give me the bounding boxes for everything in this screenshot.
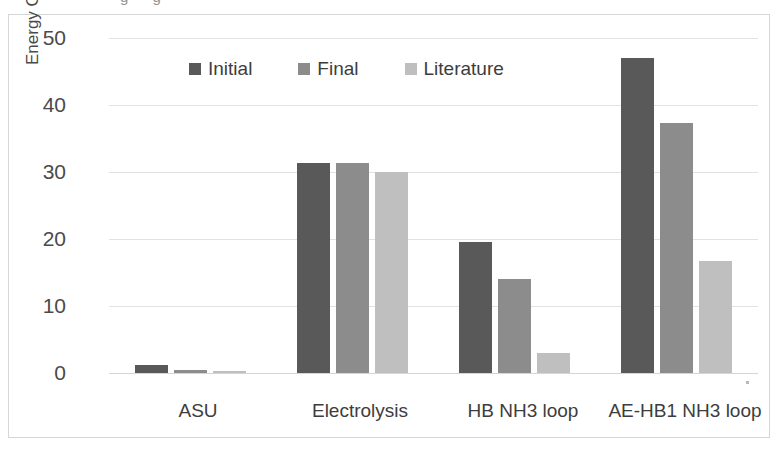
bar-ae-hb1-nh3-loop-initial[interactable] <box>621 58 654 373</box>
bar-hb-nh3-loop-initial[interactable] <box>459 242 492 373</box>
y-tick-label-40: 40 <box>20 94 66 115</box>
x-axis-category-labels: ASUElectrolysisHB NH3 loopAE-HB1 NH3 loo… <box>117 400 766 430</box>
bar-electrolysis-initial[interactable] <box>297 163 330 373</box>
clipped-caption-above: g g <box>0 0 781 12</box>
plot-area <box>109 38 758 373</box>
gridline-0 <box>109 373 758 374</box>
bar-asu-literature[interactable] <box>213 371 246 373</box>
scan-speck <box>746 381 749 384</box>
y-tick-label-0: 0 <box>20 362 66 383</box>
y-tick-label-30: 30 <box>20 161 66 182</box>
x-axis-label-ae-hb1-nh3-loop: AE-HB1 NH3 loop <box>604 400 766 422</box>
bar-ae-hb1-nh3-loop-literature[interactable] <box>699 261 732 373</box>
bar-electrolysis-final[interactable] <box>336 163 369 373</box>
y-tick-label-20: 20 <box>20 228 66 249</box>
y-tick-label-10: 10 <box>20 295 66 316</box>
x-axis-label-asu: ASU <box>117 400 279 422</box>
bar-electrolysis-literature[interactable] <box>375 172 408 373</box>
bar-ae-hb1-nh3-loop-final[interactable] <box>660 123 693 373</box>
chart-screenshot: g g Energy Consumption (GJ/tNH3) 0102030… <box>0 0 781 464</box>
bar-hb-nh3-loop-final[interactable] <box>498 279 531 373</box>
chart-frame: Energy Consumption (GJ/tNH3) 01020304050… <box>8 14 770 438</box>
y-tick-label-50: 50 <box>20 27 66 48</box>
x-axis-label-electrolysis: Electrolysis <box>279 400 441 422</box>
bar-asu-initial[interactable] <box>135 365 168 373</box>
bar-asu-final[interactable] <box>174 370 207 373</box>
bar-hb-nh3-loop-literature[interactable] <box>537 353 570 373</box>
x-axis-label-hb-nh3-loop: HB NH3 loop <box>442 400 604 422</box>
